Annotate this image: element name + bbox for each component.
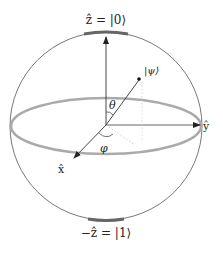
state-point [137, 77, 141, 81]
state-label: |ψ⟩ [144, 65, 159, 77]
north-pole-band [84, 32, 128, 34]
phi-arc [99, 133, 113, 137]
theta-arc [106, 112, 113, 115]
theta-label: θ [109, 99, 116, 112]
bloch-sphere-diagram: ẑ = |0⟩ −ẑ = |1⟩ |ψ⟩ θ φ x̂ ŷ [0, 0, 223, 253]
south-pole-band [88, 219, 124, 221]
phi-label: φ [100, 142, 108, 155]
y-axis-label: ŷ [202, 120, 210, 133]
south-pole-label: −ẑ = |1⟩ [81, 226, 131, 240]
projection-radial [106, 125, 135, 145]
x-axis-label: x̂ [58, 163, 65, 176]
north-pole-label: ẑ = |0⟩ [86, 13, 126, 27]
